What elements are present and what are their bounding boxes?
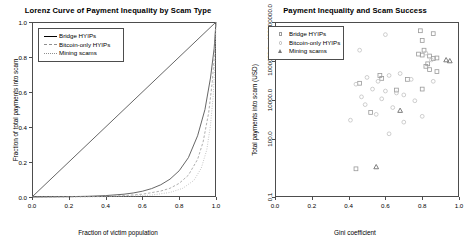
scatter-marker-triangle	[444, 58, 449, 62]
legend-item-bitcoin-only-hyips: Bitcoin-only HYIPs	[42, 41, 119, 50]
scatter-marker-circle	[349, 118, 353, 122]
scatter-marker-circle	[413, 99, 417, 103]
y-tick-mark	[29, 162, 32, 163]
legend-line-dashed-icon	[42, 41, 59, 50]
x-tick-label: 0.0	[271, 202, 280, 209]
legend-item-bitcoin-only-hyips: Bitcoin-only HYIPs	[272, 39, 339, 48]
y-tick-mark	[29, 127, 32, 128]
x-tick-label: 0.0	[28, 202, 37, 209]
scatter-marker-square	[369, 111, 373, 115]
x-tick-mark	[142, 197, 143, 200]
x-tick-mark	[32, 197, 33, 200]
legend-square-marker-icon	[272, 30, 289, 39]
legend-circle-marker-icon	[272, 39, 289, 48]
scatter-marker-circle	[371, 87, 375, 91]
scatter-yaxis-title: Total payments into scam (USD)	[251, 64, 258, 156]
scatter-marker-square	[418, 29, 422, 33]
scatter-marker-circle	[360, 95, 364, 99]
x-tick-mark	[69, 197, 70, 200]
scatter-marker-square	[420, 39, 424, 43]
legend-triangle-marker-icon	[272, 47, 289, 56]
y-tick-label: 10000.0	[266, 89, 273, 111]
legend-label: Bridge HYIPs	[289, 30, 326, 39]
y-tick-label: 0.8	[18, 54, 27, 61]
figure-two-panel-chart: Lorenz Curve of Payment Inequality by Sc…	[0, 0, 473, 247]
x-tick-mark	[312, 197, 313, 200]
x-tick-label: 1.0	[455, 202, 464, 209]
scatter-xaxis-title: Gini coefficient	[237, 229, 473, 236]
x-tick-mark	[179, 197, 180, 200]
scatter-marker-circle	[384, 33, 388, 37]
scatter-marker-square	[358, 81, 362, 85]
x-tick-label: 0.8	[175, 202, 184, 209]
scatter-marker-square	[435, 56, 439, 60]
x-tick-label: 0.4	[101, 202, 110, 209]
y-tick-mark	[29, 92, 32, 93]
scatter-marker-square	[406, 77, 410, 81]
scatter-marker-circle	[431, 79, 435, 83]
panel-scatter-scam-success: Payment Inequality and Scam Success 0.00…	[237, 0, 473, 247]
y-tick-label: 1.0	[18, 19, 27, 26]
legend-line-solid-icon	[42, 32, 59, 41]
scatter-marker-circle	[365, 76, 369, 80]
scatter-marker-square	[435, 70, 439, 74]
scatter-marker-circle	[402, 120, 406, 124]
scatter-marker-circle	[420, 114, 424, 118]
scatter-marker-circle	[391, 106, 395, 110]
x-tick-label: 1.0	[212, 202, 221, 209]
legend-item-bridge-hyips: Bridge HYIPs	[42, 32, 119, 41]
x-tick-mark	[349, 197, 350, 200]
scatter-marker-circle	[387, 132, 391, 136]
x-tick-label: 0.6	[381, 202, 390, 209]
legend-label: Bitcoin-only HYIPs	[289, 39, 340, 48]
y-tick-label: 100.0	[266, 131, 273, 146]
legend-label: Mining scams	[59, 49, 97, 58]
scatter-marker-square	[428, 68, 432, 72]
legend-item-mining-scams: Mining scams	[272, 47, 339, 56]
x-tick-mark	[275, 197, 276, 200]
scatter-marker-triangle	[374, 164, 379, 168]
scatter-marker-triangle	[447, 59, 452, 63]
scatter-marker-triangle	[398, 108, 403, 112]
scatter-marker-circle	[354, 82, 358, 86]
y-tick-mark	[29, 57, 32, 58]
scatter-marker-square	[354, 167, 358, 171]
legend-label: Mining scams	[289, 47, 327, 56]
x-tick-label: 0.4	[344, 202, 353, 209]
x-tick-mark	[106, 197, 107, 200]
legend-label: Bitcoin-only HYIPs	[59, 41, 110, 50]
scatter-marker-square	[420, 87, 424, 91]
scatter-marker-circle	[409, 77, 413, 81]
scatter-marker-circle	[376, 79, 380, 83]
scatter-marker-circle	[363, 103, 367, 107]
scatter-marker-square	[431, 32, 435, 36]
x-tick-label: 0.2	[307, 202, 316, 209]
scatter-marker-circle	[402, 93, 406, 97]
y-tick-label: 0.4	[18, 124, 27, 131]
y-tick-label: 0.1	[266, 193, 273, 202]
lorenz-legend: Bridge HYIPs Bitcoin-only HYIPs Mining s…	[38, 28, 124, 62]
scatter-marker-circle	[384, 89, 388, 93]
x-tick-mark	[216, 197, 217, 200]
scatter-marker-circle	[398, 72, 402, 76]
x-tick-mark	[459, 197, 460, 200]
y-tick-label: 0.2	[18, 159, 27, 166]
scatter-legend: Bridge HYIPs Bitcoin-only HYIPs Mining s…	[268, 26, 344, 60]
x-tick-label: 0.8	[418, 202, 427, 209]
scatter-marker-square	[420, 53, 424, 57]
scatter-marker-circle	[387, 74, 391, 78]
x-tick-label: 0.2	[64, 202, 73, 209]
panel-lorenz-curve: Lorenz Curve of Payment Inequality by Sc…	[0, 0, 236, 247]
scatter-marker-square	[417, 52, 421, 56]
scatter-marker-circle	[374, 112, 378, 116]
y-tick-mark	[29, 22, 32, 23]
scatter-series-bridge-hyips	[354, 29, 439, 171]
scatter-series-mining-scams	[374, 58, 452, 169]
y-tick-mark	[29, 197, 32, 198]
lorenz-yaxis-title: Fraction of total payments into scam	[12, 58, 19, 161]
scatter-marker-circle	[380, 97, 384, 101]
x-tick-label: 0.6	[138, 202, 147, 209]
legend-item-bridge-hyips: Bridge HYIPs	[272, 30, 339, 39]
x-tick-mark	[422, 197, 423, 200]
legend-item-mining-scams: Mining scams	[42, 49, 119, 58]
